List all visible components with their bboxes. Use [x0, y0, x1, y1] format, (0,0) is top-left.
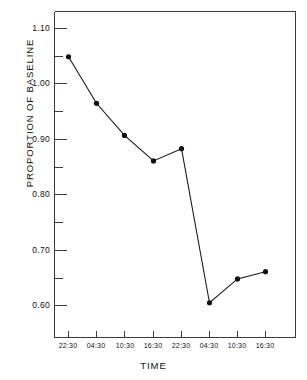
data-point-3	[151, 158, 156, 163]
data-line	[69, 57, 266, 303]
axis-frame	[55, 12, 296, 338]
data-point-0	[66, 54, 71, 59]
chart-figure: PROPORTION OF BASELINE 1.10 1.00 0.90 0.…	[0, 0, 307, 380]
y-minor-ticks	[55, 57, 63, 279]
plot-area	[0, 0, 307, 380]
data-point-4	[179, 146, 184, 151]
x-ticks	[69, 331, 266, 338]
data-point-7	[263, 269, 268, 274]
data-point-1	[94, 101, 99, 106]
data-point-6	[235, 276, 240, 281]
data-markers	[66, 54, 268, 305]
data-point-5	[207, 300, 212, 305]
data-point-2	[122, 133, 127, 138]
